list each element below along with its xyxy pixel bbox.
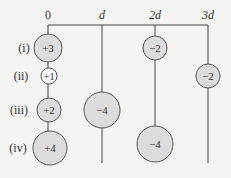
axis-label-2d: 2d <box>149 8 162 22</box>
row-label-iii: (iii) <box>10 103 28 117</box>
charge-iv-2d: −4 <box>137 126 173 162</box>
svg-text:−4: −4 <box>149 138 161 150</box>
row-label-iv: (iv) <box>9 141 26 155</box>
charge-iii-d: −4 <box>84 92 120 128</box>
charge-ii-0: +1 <box>41 68 57 84</box>
axis-label-0: 0 <box>45 8 51 22</box>
svg-text:+1: +1 <box>43 70 55 82</box>
charge-ii-3d: −2 <box>196 64 220 88</box>
svg-text:−2: −2 <box>149 42 161 54</box>
svg-text:+4: +4 <box>44 142 56 154</box>
charge-iv-0: +4 <box>33 131 67 165</box>
axis-label-3d: 3d <box>201 8 215 22</box>
row-label-i: (i) <box>18 41 29 55</box>
axis-label-d: d <box>99 8 106 22</box>
charge-i-0: +3 <box>34 34 62 62</box>
svg-text:−2: −2 <box>202 70 214 82</box>
svg-text:+3: +3 <box>42 42 54 54</box>
row-label-ii: (ii) <box>14 69 29 83</box>
svg-text:−4: −4 <box>96 104 108 116</box>
charge-diagram: 0 d 2d 3d (i) (ii) (iii) (iv) +3 −2 +1 −… <box>0 0 231 178</box>
charge-iii-0: +2 <box>37 98 61 122</box>
charge-i-2d: −2 <box>143 36 167 60</box>
svg-text:+2: +2 <box>43 104 55 116</box>
